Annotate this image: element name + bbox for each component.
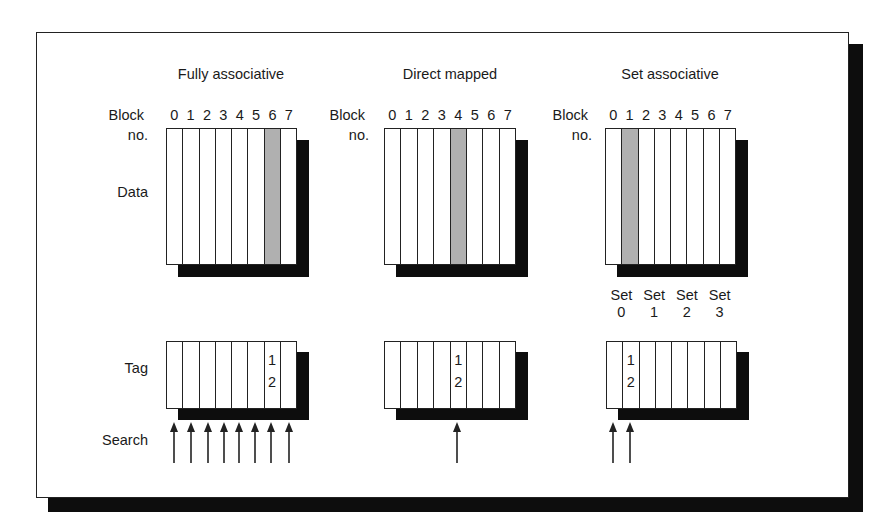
tag-cell	[500, 342, 515, 408]
data-cell	[434, 129, 450, 264]
block-number: 5	[248, 107, 264, 123]
search-arrow-icon	[203, 422, 213, 464]
tag-block-fully: 1 2	[166, 341, 297, 409]
panel-title-direct-mapped: Direct mapped	[350, 66, 550, 82]
block-number: 1	[401, 107, 418, 123]
data-cell	[167, 129, 183, 264]
no-label: no.	[289, 127, 369, 143]
search-arrow-icon	[266, 422, 276, 464]
data-cell	[655, 129, 671, 264]
tag-cell-match: 1 2	[451, 342, 467, 408]
tag-cell	[467, 342, 483, 408]
data-cell	[687, 129, 703, 264]
tag-cell	[656, 342, 672, 408]
data-cell	[232, 129, 248, 264]
data-block-direct	[384, 128, 516, 265]
tag-cell	[483, 342, 499, 408]
tag-block-set: 1 2	[606, 341, 737, 409]
tag-digit: 2	[623, 374, 638, 390]
search-arrow-icon	[250, 422, 260, 464]
tag-cell	[200, 342, 216, 408]
tag-label: Tag	[68, 360, 148, 376]
block-number: 3	[434, 107, 451, 123]
tag-cell	[232, 342, 248, 408]
block-number: 0	[166, 107, 182, 123]
search-arrow-icon	[284, 422, 294, 464]
block-number: 4	[450, 107, 467, 123]
data-cell	[401, 129, 417, 264]
tag-cell	[183, 342, 199, 408]
search-arrow-icon	[452, 422, 462, 464]
data-cell	[704, 129, 720, 264]
tag-digit: 1	[451, 352, 466, 368]
data-block-set	[605, 128, 736, 265]
block-label: Block	[64, 107, 144, 123]
block-number: 4	[232, 107, 248, 123]
data-cell	[467, 129, 483, 264]
search-label: Search	[68, 432, 148, 448]
set-label-1: Set1	[638, 287, 671, 321]
block-numbers-set: 0 1 2 3 4 5 6 7	[605, 107, 736, 123]
data-cell	[385, 129, 401, 264]
block-number: 6	[703, 107, 719, 123]
data-block-fully	[166, 128, 297, 265]
set-label-2: Set2	[671, 287, 704, 321]
data-cell	[281, 129, 296, 264]
data-cell	[418, 129, 434, 264]
search-arrow-icon	[169, 422, 179, 464]
data-cell	[606, 129, 622, 264]
block-label: Block	[508, 107, 588, 123]
data-cell	[183, 129, 199, 264]
tag-cell	[688, 342, 704, 408]
data-cell	[248, 129, 264, 264]
set-labels: Set0 Set1 Set2 Set3	[605, 287, 736, 321]
block-number: 6	[483, 107, 500, 123]
tag-block-direct: 1 2	[384, 341, 516, 409]
search-arrow-icon	[625, 422, 635, 464]
data-cell	[639, 129, 655, 264]
search-arrow-icon	[234, 422, 244, 464]
data-cell	[216, 129, 232, 264]
tag-cell	[248, 342, 264, 408]
data-cell	[671, 129, 687, 264]
tag-digit: 1	[265, 352, 280, 368]
block-numbers-fully: 0 1 2 3 4 5 6 7	[166, 107, 297, 123]
data-cell-highlighted	[622, 129, 638, 264]
tag-digit: 2	[451, 374, 466, 390]
tag-digit: 2	[265, 374, 280, 390]
block-number: 3	[654, 107, 670, 123]
tag-cell	[418, 342, 434, 408]
data-cell-highlighted	[451, 129, 467, 264]
block-number: 1	[621, 107, 637, 123]
block-number: 0	[384, 107, 401, 123]
panel-title-set-associative: Set associative	[570, 66, 770, 82]
tag-cell	[401, 342, 417, 408]
data-label: Data	[68, 184, 148, 200]
set-label-3: Set3	[703, 287, 736, 321]
tag-cell	[167, 342, 183, 408]
block-number: 2	[199, 107, 215, 123]
block-number: 7	[720, 107, 736, 123]
tag-cell	[672, 342, 688, 408]
data-cell	[200, 129, 216, 264]
search-arrow-icon	[186, 422, 196, 464]
panel-title-fully-associative: Fully associative	[131, 66, 331, 82]
block-number: 4	[671, 107, 687, 123]
block-number: 0	[605, 107, 621, 123]
data-cell	[500, 129, 515, 264]
set-label-0: Set0	[605, 287, 638, 321]
block-label: Block	[285, 107, 365, 123]
block-number: 3	[215, 107, 231, 123]
data-cell	[720, 129, 735, 264]
block-number: 2	[417, 107, 434, 123]
block-number: 1	[182, 107, 198, 123]
tag-digit: 1	[623, 352, 638, 368]
tag-cell	[607, 342, 623, 408]
no-label: no.	[512, 127, 592, 143]
tag-cell	[216, 342, 232, 408]
data-cell	[483, 129, 499, 264]
search-arrow-icon	[219, 422, 229, 464]
block-numbers-direct: 0 1 2 3 4 5 6 7	[384, 107, 516, 123]
tag-cell	[705, 342, 721, 408]
block-number: 2	[638, 107, 654, 123]
